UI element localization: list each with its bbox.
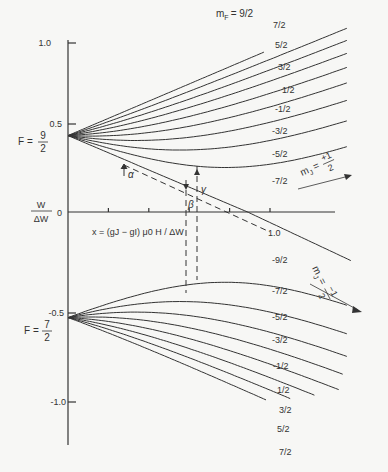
mf-title: mF= 9/2 [216, 8, 254, 21]
curve-lower-mf--1.5 [68, 312, 347, 356]
curve-upper-mf--3.5 [68, 136, 347, 168]
upper-label-6: -5/2 [272, 149, 288, 159]
svg-text:2: 2 [326, 162, 335, 173]
mj-minus-label: mJ= −1 2 [304, 262, 340, 304]
curve-lower-mf-3.5 [68, 318, 266, 400]
lower-mf-labels: -9/2-7/2-5/2-3/2-1/21/23/25/27/2 [272, 255, 292, 457]
gamma-label: γ [201, 184, 207, 195]
curve-upper-mf-4.5 [68, 52, 264, 136]
upper-label-0: 7/2 [273, 20, 286, 30]
y-axis-label-denominator: ΔW [34, 214, 49, 224]
lower-label-7: 5/2 [277, 424, 290, 434]
upper-label-7: -7/2 [272, 176, 288, 186]
y-tick-label-neg1.0: -1.0 [50, 397, 66, 407]
lower-label-2: -5/2 [272, 312, 288, 322]
breit-rabi-diagram: 1.0 0.5 0 -0.5 -1.0 1.0 W ΔW x = (gJ − g… [0, 0, 388, 472]
energy-level-curves [68, 28, 351, 400]
gamma-arrow [194, 169, 200, 175]
x-axis-label: x = (gJ − gI) μ0 H / ΔW [92, 227, 184, 237]
y-tick-label-0.5: 0.5 [49, 119, 62, 129]
f-upper-den: 2 [40, 143, 46, 154]
f-lower-label: F = [24, 325, 39, 336]
y-tick-label-1.0: 1.0 [38, 38, 51, 48]
lower-label-1: -7/2 [272, 286, 288, 296]
beta-label: β [187, 199, 194, 210]
lower-label-0: -9/2 [272, 255, 288, 265]
y-axis-label-numerator: W [37, 200, 46, 210]
upper-label-1: 5/2 [275, 40, 288, 50]
f-lower-den: 2 [44, 332, 50, 343]
upper-label-4: -1/2 [275, 104, 291, 114]
upper-label-5: -3/2 [272, 126, 288, 136]
upper-label-2: 3/2 [278, 62, 291, 72]
svg-text:mJ=: mJ= [308, 264, 329, 288]
lower-label-6: 3/2 [279, 405, 292, 415]
alpha-label: α [128, 169, 134, 180]
curve-lower-mf--3.5 [68, 282, 347, 317]
upper-label-3: 1/2 [282, 85, 295, 95]
lower-label-5: 1/2 [277, 385, 290, 395]
curve-upper-mf-1.5 [68, 53, 347, 135]
x-tick-label-1.0: 1.0 [268, 228, 281, 238]
f-upper-num: 9 [40, 130, 46, 141]
lower-label-3: -3/2 [272, 335, 288, 345]
lower-label-4: -1/2 [273, 361, 289, 371]
curve-mf-neg9-2 [68, 136, 351, 261]
curve-upper-mf--1.5 [68, 100, 347, 140]
curve-lower-mf-1.5 [68, 318, 314, 396]
y-tick-label-neg0.5: -0.5 [48, 308, 64, 318]
f-upper-label: F = [18, 136, 33, 147]
svg-text:mJ=: mJ= [298, 160, 321, 180]
lower-label-8: 7/2 [279, 447, 292, 457]
f-lower-num: 7 [44, 319, 50, 330]
mj-plus-arrow [298, 176, 349, 189]
y-tick-label-0: 0 [57, 208, 62, 218]
